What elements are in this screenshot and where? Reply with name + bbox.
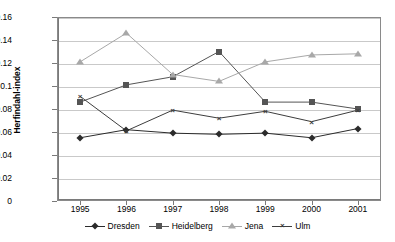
y-axis-tick-mark	[52, 201, 57, 202]
x-axis-tick-label: 1995	[57, 205, 103, 214]
legend-item-ulm[interactable]: ×Ulm	[272, 221, 310, 231]
diamond-marker-icon	[85, 222, 105, 231]
y-axis-title: Herfindahl-index	[12, 25, 22, 175]
data-point-ulm-1997: ×	[169, 107, 176, 114]
data-point-jena-1997	[169, 71, 177, 77]
legend-label: Ulm	[295, 221, 310, 231]
cross-marker-icon: ×	[272, 222, 292, 231]
gridline	[58, 87, 380, 88]
x-axis-tick-label: 1997	[150, 205, 196, 214]
y-axis-tick-label: 0.14	[0, 36, 12, 45]
y-axis-tick-label: 0.08	[0, 105, 12, 114]
data-point-jena-1996	[122, 29, 130, 35]
x-axis-tick-mark	[173, 201, 174, 205]
x-axis-tick-label: 2001	[335, 205, 381, 214]
data-point-ulm-1996: ×	[123, 127, 130, 134]
gridline	[58, 156, 380, 157]
y-axis-tick-label: 0.1	[0, 82, 12, 91]
x-axis-tick-mark	[312, 201, 313, 205]
legend-label: Dresden	[108, 221, 140, 231]
data-point-ulm-1998: ×	[216, 115, 223, 122]
y-axis-tick-label: 0.12	[0, 59, 12, 68]
legend-item-heidelberg[interactable]: Heidelberg	[149, 221, 213, 231]
data-point-heidelberg-2000	[309, 99, 315, 105]
y-axis-tick-label: 0.04	[0, 151, 12, 160]
x-axis-tick-label: 1996	[103, 205, 149, 214]
y-axis-tick-label: 0.02	[0, 174, 12, 183]
chart-legend: DresdenHeidelbergJena×Ulm	[0, 221, 395, 231]
data-point-jena-2001	[354, 50, 362, 56]
data-point-ulm-2001: ×	[354, 107, 361, 114]
square-marker-icon	[149, 222, 169, 231]
plot-area	[57, 17, 381, 201]
x-axis-tick-mark	[80, 201, 81, 205]
data-point-ulm-2000: ×	[308, 118, 315, 125]
triangle-marker-icon	[222, 222, 242, 231]
data-point-jena-1995	[76, 58, 84, 64]
x-axis-tick-mark	[358, 201, 359, 205]
data-point-heidelberg-1999	[262, 99, 268, 105]
data-point-jena-1999	[261, 58, 269, 64]
x-axis-line	[58, 199, 380, 200]
x-axis-tick-mark	[219, 201, 220, 205]
y-axis-line	[58, 18, 59, 200]
y-axis-tick-label: 0	[0, 197, 12, 206]
gridline	[58, 110, 380, 111]
legend-item-jena[interactable]: Jena	[222, 221, 263, 231]
gridline	[58, 41, 380, 42]
x-axis-tick-label: 1999	[242, 205, 288, 214]
data-point-jena-1998	[215, 78, 223, 84]
legend-label: Jena	[245, 221, 263, 231]
y-axis-tick-label: 0.06	[0, 128, 12, 137]
data-point-jena-2000	[308, 51, 316, 57]
data-point-heidelberg-1998	[216, 49, 222, 55]
gridline	[58, 179, 380, 180]
herfindahl-index-line-chart: Herfindahl-index 00.020.040.060.080.10.1…	[0, 0, 395, 242]
y-axis-tick-label: 0.16	[0, 13, 12, 22]
legend-label: Heidelberg	[172, 221, 213, 231]
data-point-ulm-1995: ×	[77, 93, 84, 100]
x-axis-tick-label: 1998	[196, 205, 242, 214]
data-point-ulm-1999: ×	[262, 108, 269, 115]
x-axis-tick-mark	[265, 201, 266, 205]
gridline	[58, 18, 380, 19]
legend-item-dresden[interactable]: Dresden	[85, 221, 140, 231]
gridline	[58, 64, 380, 65]
x-axis-tick-mark	[126, 201, 127, 205]
data-point-heidelberg-1996	[123, 82, 129, 88]
x-axis-tick-label: 2000	[289, 205, 335, 214]
